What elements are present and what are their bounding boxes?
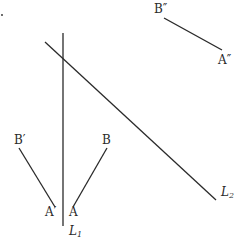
stray-dot xyxy=(1,14,3,16)
label-a-prime: A′ xyxy=(44,205,57,219)
label-l2: L2 xyxy=(220,185,234,200)
label-l2-subscript: 2 xyxy=(228,191,234,200)
label-l1: L1 xyxy=(68,224,82,238)
segment-a-b xyxy=(73,148,107,207)
line-l2 xyxy=(45,42,216,200)
label-b: B xyxy=(102,133,111,147)
label-a-double-prime: A″ xyxy=(217,53,232,67)
label-l2-main: L xyxy=(220,185,229,199)
label-b-prime: B′ xyxy=(14,133,26,147)
segment-a-double-prime-b-double-prime xyxy=(164,18,222,50)
reflection-diagram: B″ A″ B′ A′ B A L1 L2 xyxy=(0,0,240,238)
segment-a-prime-b-prime xyxy=(19,148,55,207)
label-a: A xyxy=(68,205,78,219)
label-b-double-prime: B″ xyxy=(154,2,168,16)
label-l1-main: L xyxy=(68,224,77,238)
label-l1-subscript: 1 xyxy=(77,230,82,238)
